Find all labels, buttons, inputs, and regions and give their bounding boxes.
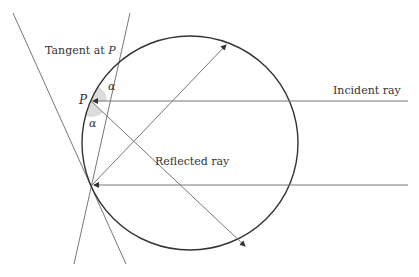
point-p-label: P xyxy=(79,93,87,107)
tangent-label-point: P xyxy=(108,44,115,57)
tangent-label-text: Tangent at xyxy=(45,44,108,57)
reflection-diagram xyxy=(0,0,419,277)
alpha-top-label: α xyxy=(108,80,115,93)
mirror-circle xyxy=(82,36,298,250)
reflected-ray-label: Reflected ray xyxy=(155,155,229,168)
angle-arc-bottom xyxy=(86,101,103,117)
angle-arc-top xyxy=(91,86,107,101)
incident-ray-label: Incident ray xyxy=(333,84,401,97)
tangent-label: Tangent at P xyxy=(45,44,116,57)
alpha-bottom-label: α xyxy=(89,117,96,130)
reflected-ray xyxy=(91,101,245,246)
